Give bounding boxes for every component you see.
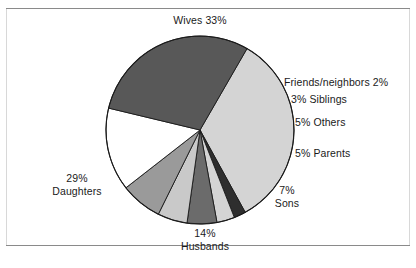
slice-label-daughters-name: Daughters — [38, 185, 116, 198]
slice-label-others-text: 5% Others — [295, 116, 346, 128]
slice-label-husbands-name: Husbands — [165, 240, 245, 253]
slice-label-sons: 7% Sons — [258, 184, 316, 209]
slice-label-daughters-percent: 29% — [38, 172, 116, 185]
slice-label-husbands: 14% Husbands — [165, 227, 245, 252]
pie-chart-figure: Wives 33% Friends/neighbors 2% 3% Siblin… — [0, 0, 416, 268]
slice-label-siblings: 3% Siblings — [291, 93, 347, 106]
slice-label-husbands-percent: 14% — [165, 227, 245, 240]
slice-label-wives: Wives 33% — [120, 14, 280, 27]
slice-label-parents-text: 5% Parents — [295, 147, 350, 159]
slice-label-friends-neighbors-text: Friends/neighbors 2% — [284, 76, 388, 88]
slice-label-sons-name: Sons — [258, 197, 316, 210]
slice-label-others: 5% Others — [295, 116, 346, 129]
slice-label-sons-percent: 7% — [258, 184, 316, 197]
slice-label-wives-text: Wives 33% — [173, 14, 226, 26]
slice-label-daughters: 29% Daughters — [38, 172, 116, 197]
slice-label-parents: 5% Parents — [295, 147, 350, 160]
slice-label-friends-neighbors: Friends/neighbors 2% — [284, 76, 388, 89]
slice-label-siblings-text: 3% Siblings — [291, 93, 347, 105]
